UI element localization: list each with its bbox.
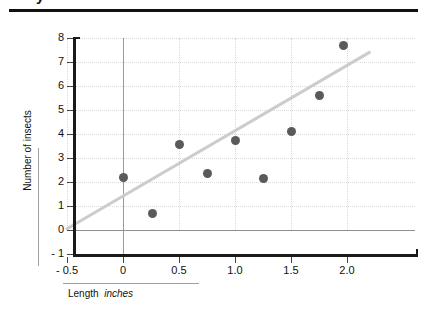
- x-axis-tick-label: - 0.5: [47, 264, 87, 276]
- y-axis-tick-label: 4: [40, 127, 64, 139]
- x-axis-tick-label: 2.0: [327, 264, 367, 276]
- y-axis-tick-label: 2: [40, 175, 64, 187]
- y-axis-tick: [67, 86, 73, 87]
- x-axis-title: Length inches: [68, 288, 133, 299]
- y-axis-tick: [67, 182, 73, 183]
- x-axis-tick-label: 1.0: [215, 264, 255, 276]
- y-axis-title-rule: [38, 148, 39, 266]
- y-axis-tick: [67, 206, 73, 207]
- x-axis-tick: [347, 257, 348, 263]
- data-point: [259, 174, 268, 183]
- x-axis-spine: [73, 254, 418, 257]
- x-axis-tick: [291, 257, 292, 263]
- y-axis-top-cap: [73, 37, 80, 39]
- y-axis-tick-label: 0: [40, 223, 64, 235]
- y-axis-tick-label: 5: [40, 103, 64, 115]
- x-axis-tick: [123, 257, 124, 263]
- data-point: [231, 136, 240, 145]
- x-axis-title-rule: [63, 283, 199, 284]
- chart-page: y - 1012345678- 0.500.51.01.52.0 Number …: [0, 0, 426, 315]
- x-axis-tick-label: 0: [103, 264, 143, 276]
- y-axis-tick-label: 8: [40, 31, 64, 43]
- y-axis-tick: [67, 254, 73, 255]
- y-axis-tick: [67, 38, 73, 39]
- x-axis-title-unit: inches: [104, 288, 133, 299]
- data-point: [203, 169, 212, 178]
- plot-data-layer: [75, 38, 415, 254]
- data-point: [119, 173, 128, 182]
- data-point: [148, 209, 157, 218]
- y-axis-tick-label: 7: [40, 55, 64, 67]
- y-axis-tick-label: - 1: [40, 247, 64, 259]
- title-divider: [9, 9, 418, 12]
- trend-line-svg: [75, 38, 415, 254]
- y-axis-tick-label: 1: [40, 199, 64, 211]
- x-axis-title-main: Length: [68, 288, 99, 299]
- y-axis-title: Number of insects: [22, 91, 33, 211]
- x-axis-tick: [235, 257, 236, 263]
- y-axis-tick: [67, 134, 73, 135]
- y-axis-spine: [73, 37, 76, 256]
- y-axis-tick: [67, 158, 73, 159]
- data-point: [339, 41, 348, 50]
- trend-line: [67, 52, 369, 228]
- y-axis-tick: [67, 62, 73, 63]
- cropped-heading: y: [0, 0, 426, 4]
- y-axis-tick-label: 3: [40, 151, 64, 163]
- x-axis-tick: [67, 257, 68, 263]
- x-axis-tick-label: 1.5: [271, 264, 311, 276]
- y-axis-tick: [67, 230, 73, 231]
- cropped-heading-text: y: [36, 0, 45, 4]
- x-axis-tick-label: 0.5: [159, 264, 199, 276]
- data-point: [287, 127, 296, 136]
- x-axis-tick: [179, 257, 180, 263]
- y-axis-tick-label: 6: [40, 79, 64, 91]
- x-axis-right-cap: [416, 249, 418, 256]
- y-axis-tick: [67, 110, 73, 111]
- data-point: [315, 91, 324, 100]
- data-point: [175, 140, 184, 149]
